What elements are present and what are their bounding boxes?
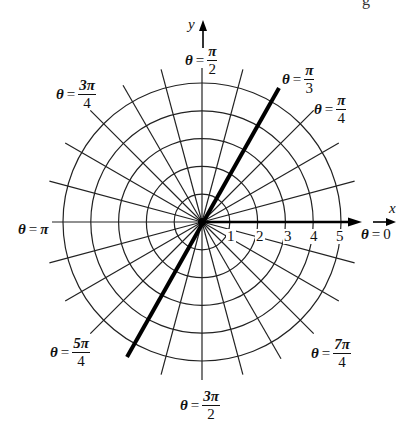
label-theta-pi: θ = π (18, 221, 48, 238)
ray-300deg (202, 222, 281, 359)
fraction: 7π 4 (333, 337, 351, 370)
ray-120deg (123, 85, 202, 222)
fraction: π 4 (336, 93, 346, 126)
ray-135deg (90, 110, 202, 222)
fraction: 5π 4 (72, 336, 90, 369)
ray-30deg (202, 143, 339, 222)
ray-225deg (90, 222, 202, 334)
label-theta-pi-over-3: θ = π 3 (282, 63, 314, 96)
ray-150deg (65, 143, 202, 222)
x-axis-label: x (389, 200, 396, 217)
ring-label-3: 3 (283, 229, 293, 244)
clipped-text-fragment: g (362, 0, 370, 9)
x-axis-arrowhead (386, 218, 396, 226)
polar-axis-arrowhead (348, 218, 362, 227)
label-theta-3pi-over-4: θ = 3π 4 (56, 78, 96, 111)
label-theta-5pi-over-4: θ = 5π 4 (50, 336, 90, 369)
y-axis-arrowhead (199, 20, 207, 31)
label-theta-7pi-over-4: θ = 7π 4 (311, 337, 351, 370)
y-axis-label: y (188, 16, 195, 33)
fraction: π 3 (304, 63, 314, 96)
origin-point (198, 218, 206, 226)
polar-diagram: 1 2 3 4 5 x y θ = 0 θ = π θ = π 2 θ = π … (0, 0, 418, 424)
fraction: π 2 (207, 44, 217, 77)
ring-label-1: 1 (226, 229, 236, 244)
fraction: 3π 2 (202, 389, 220, 422)
fraction: 3π 4 (78, 78, 96, 111)
ring-label-5: 5 (335, 229, 345, 244)
label-theta-0: θ = 0 (361, 226, 391, 243)
ring-label-2: 2 (255, 229, 265, 244)
ring-label-4: 4 (309, 229, 319, 244)
label-theta-pi-over-2: θ = π 2 (185, 44, 217, 77)
label-theta-3pi-over-2: θ = 3π 2 (180, 389, 220, 422)
label-theta-pi-over-4: θ = π 4 (314, 93, 346, 126)
